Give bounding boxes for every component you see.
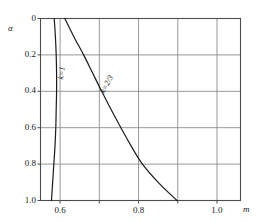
axis-frame: [41, 19, 241, 201]
vertical-gridlines: [60, 19, 217, 201]
horizontal-gridlines: [41, 55, 241, 164]
tick-marks: [38, 19, 217, 204]
plot-border: [41, 19, 241, 201]
y-tick-label: 0: [10, 14, 36, 23]
y-tick-label: 1.0: [10, 196, 36, 205]
curve-k-2-3: [65, 19, 177, 201]
x-axis-title: m: [243, 205, 250, 214]
plot-area: [0, 0, 261, 222]
y-tick-label: 0.8: [10, 159, 36, 168]
y-tick-label: 0.6: [10, 123, 36, 132]
x-tick-label: 1.0: [202, 206, 232, 215]
y-tick-label: 0.4: [10, 86, 36, 95]
curve-k-1: [51, 19, 56, 201]
curve-label: k=1: [57, 66, 67, 80]
y-tick-label: 0.2: [10, 50, 36, 59]
x-tick-label: 0.8: [124, 206, 154, 215]
data-curves: [51, 19, 176, 201]
y-axis-title: α: [8, 24, 13, 33]
chart-figure: 00.20.40.60.81.0 0.60.81.0 α m k=1k=2/3: [0, 0, 261, 222]
x-tick-label: 0.6: [45, 206, 75, 215]
